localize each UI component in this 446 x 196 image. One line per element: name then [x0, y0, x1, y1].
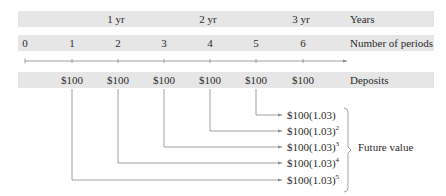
future-value-3: $100(1.03)3 — [287, 141, 339, 153]
future-value-5: $100(1.03)5 — [287, 174, 339, 186]
future-value-4: $100(1.03)4 — [287, 157, 339, 169]
timeline-lines — [0, 0, 446, 196]
future-value-label: Future value — [358, 141, 413, 153]
future-value-2: $100(1.03)2 — [287, 125, 339, 137]
future-value-1: $100(1.03) — [287, 109, 336, 121]
